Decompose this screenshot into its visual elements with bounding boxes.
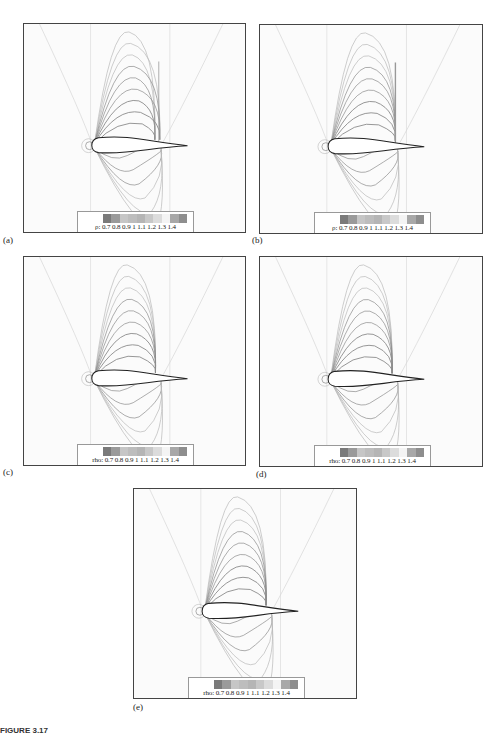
colorbar-swatch [365,448,373,457]
airfoil-shape [92,370,188,386]
colorbar-ticks-d: 0.7 0.8 0.9 1 1.1 1.2 1.3 1.4 [342,457,416,465]
colorbar-swatch [340,215,348,224]
density-contour-upper [95,311,156,377]
colorbar-swatch [103,447,111,456]
figure-caption: FIGURE 3.17 [0,726,48,733]
colorbar-swatch [374,448,382,457]
colorbar-swatch [222,680,230,689]
colorbar-swatch [365,215,373,224]
colorbar-swatch [239,680,247,689]
colorbar-variable-b: ρ: [332,224,337,232]
colorbar-a [103,214,187,223]
density-contour-upper [331,67,396,145]
colorbar-d [340,448,424,457]
colorbar-c [103,447,187,456]
density-contour-upper [95,32,155,144]
colorbar-swatch [128,214,136,223]
colorbar-swatch [128,447,136,456]
colorbar-legend-e: rho: 0.7 0.8 0.9 1 1.1 1.2 1.3 1.4 [188,677,305,699]
density-contour-upper [331,299,392,377]
panel-label-c: (c) [3,467,13,477]
contour-plot-e [134,489,356,698]
contour-plot-d [260,257,482,466]
colorbar-variable-d: rho: [329,457,340,465]
colorbar-legend-a: ρ: 0.7 0.8 0.9 1 1.1 1.2 1.3 1.4 [77,211,194,233]
panel-d: rho: 0.7 0.8 0.9 1 1.1 1.2 1.3 1.4 [259,256,483,467]
density-contour-upper [205,508,266,609]
colorbar-swatch [170,447,178,456]
colorbar-swatch [179,214,187,223]
density-contour-upper [95,66,160,144]
colorbar-ticks-b: 0.7 0.8 0.9 1 1.1 1.2 1.3 1.4 [339,224,413,232]
colorbar-swatch [153,214,161,223]
colorbar-swatch [273,680,281,689]
far-field-contour [40,257,93,379]
panel-label-d: (d) [256,469,267,479]
colorbar-swatch [399,215,407,224]
colorbar-swatch [179,447,187,456]
colorbar-swatch [120,447,128,456]
colorbar-legend-d: rho: 0.7 0.8 0.9 1 1.1 1.2 1.3 1.4 [314,445,431,467]
density-contour-upper [95,89,160,144]
colorbar-swatch [390,448,398,457]
panel-c: rho: 0.7 0.8 0.9 1 1.1 1.2 1.3 1.4 [23,256,246,466]
colorbar-swatch [256,680,264,689]
colorbar-swatch [153,447,161,456]
colorbar-swatch [103,214,111,223]
colorbar-swatch [407,448,415,457]
panel-label-e: (e) [133,702,143,712]
density-contour-upper [205,554,266,609]
colorbar-swatch [214,680,222,689]
colorbar-swatch [416,448,424,457]
airfoil-shape [92,137,188,153]
colorbar-swatch [137,214,145,223]
colorbar-swatch [111,214,119,223]
colorbar-swatch [374,215,382,224]
colorbar-swatch [357,448,365,457]
density-contour-upper [331,276,392,377]
far-field-contour [272,489,334,611]
far-field-contour [276,257,329,379]
far-field-contour [150,489,203,611]
colorbar-swatch [264,680,272,689]
colorbar-variable-a: ρ: [95,223,100,231]
density-contour-upper [95,276,156,377]
colorbar-swatch [407,215,415,224]
colorbar-swatch [137,447,145,456]
colorbar-ticks-a: 0.7 0.8 0.9 1 1.1 1.2 1.3 1.4 [102,223,176,231]
panel-a: ρ: 0.7 0.8 0.9 1 1.1 1.2 1.3 1.4 [23,23,246,233]
colorbar-swatch [348,215,356,224]
colorbar-swatch [231,680,239,689]
colorbar-legend-b: ρ: 0.7 0.8 0.9 1 1.1 1.2 1.3 1.4 [314,212,431,234]
colorbar-swatch [170,214,178,223]
colorbar-legend-c: rho: 0.7 0.8 0.9 1 1.1 1.2 1.3 1.4 [77,444,194,466]
colorbar-swatch [162,447,170,456]
colorbar-e [214,680,298,689]
contour-plot-a [24,24,245,232]
density-contour-upper [331,44,396,145]
density-contour-upper [331,322,392,377]
far-field-contour [161,257,223,379]
colorbar-swatch [162,214,170,223]
colorbar-swatch [357,215,365,224]
contour-plot-b [260,25,482,233]
colorbar-swatch [120,214,128,223]
colorbar-swatch [111,447,119,456]
density-contour-upper [205,531,266,609]
colorbar-ticks-c: 0.7 0.8 0.9 1 1.1 1.2 1.3 1.4 [105,456,179,464]
colorbar-swatch [281,680,289,689]
colorbar-swatch [145,214,153,223]
colorbar-swatch [145,447,153,456]
colorbar-swatch [348,448,356,457]
contour-plot-c [24,257,245,465]
colorbar-swatch [290,680,298,689]
colorbar-swatch [340,448,348,457]
panel-b: ρ: 0.7 0.8 0.9 1 1.1 1.2 1.3 1.4 [259,24,483,234]
density-contour-upper [205,543,266,609]
density-contour-upper [95,322,156,377]
far-field-contour [40,24,93,146]
airfoil-shape [328,371,424,387]
airfoil-shape [202,603,298,619]
far-field-contour [161,24,223,146]
panel-e: rho: 0.7 0.8 0.9 1 1.1 1.2 1.3 1.4 [133,488,357,699]
